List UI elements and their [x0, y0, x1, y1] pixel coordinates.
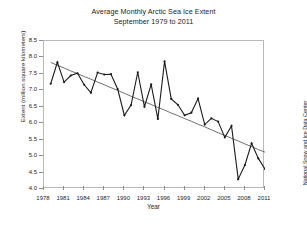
data-point-1999 — [184, 114, 186, 116]
x-tick-mark — [83, 186, 84, 190]
plot-area — [43, 40, 264, 188]
x-tick-label-2011: 2011 — [258, 195, 271, 201]
data-series-path — [51, 61, 265, 179]
x-tick-mark — [123, 186, 124, 190]
x-tick-label-1984: 1984 — [76, 195, 89, 201]
x-tick-label-1996: 1996 — [157, 195, 170, 201]
x-tick-mark — [103, 186, 104, 190]
data-point-2009 — [251, 142, 253, 144]
x-tick-mark — [244, 186, 245, 190]
data-point-1995 — [157, 118, 159, 120]
data-point-1983 — [76, 72, 78, 74]
y-tick-label-5-0: 5.0 — [29, 152, 37, 158]
x-tick-mark — [164, 186, 165, 190]
y-tick-label-6-5: 6.5 — [29, 103, 37, 109]
x-tick-label-2008: 2008 — [237, 195, 250, 201]
data-point-1998 — [177, 104, 179, 106]
x-tick-label-2002: 2002 — [197, 195, 210, 201]
plot-svg — [44, 41, 265, 189]
x-tick-label-1999: 1999 — [177, 195, 190, 201]
data-point-1991 — [130, 104, 132, 106]
data-point-2002 — [204, 123, 206, 125]
data-point-1994 — [150, 83, 152, 85]
y-tick-label-8-0: 8.0 — [29, 53, 37, 59]
chart-title-line-1: Average Monthly Arctic Sea Ice Extent — [0, 7, 307, 17]
data-point-2010 — [257, 157, 259, 159]
data-point-1996 — [163, 60, 165, 62]
data-point-2005 — [224, 136, 226, 138]
y-tick-label-4-0: 4.0 — [29, 185, 37, 191]
chart-title: Average Monthly Arctic Sea Ice Extent Se… — [0, 7, 307, 26]
y-axis-title: Extent (million square kilometers) — [19, 7, 26, 147]
y-tick-label-4-5: 4.5 — [29, 169, 37, 175]
x-axis-title: Year — [43, 203, 264, 210]
data-point-1980 — [56, 61, 58, 63]
x-tick-label-2005: 2005 — [217, 195, 230, 201]
y-tick-label-5-5: 5.5 — [29, 136, 37, 142]
x-axis-tick-labels: 1978198119841987199019931996199920022005… — [43, 190, 264, 202]
x-tick-mark — [43, 186, 44, 190]
x-tick-mark — [264, 186, 265, 190]
source-credit: National Snow and Ice Data Center — [302, 82, 307, 204]
y-tick-label-6-0: 6.0 — [29, 119, 37, 125]
x-tick-label-1987: 1987 — [97, 195, 110, 201]
data-point-1981 — [63, 81, 65, 83]
x-tick-label-1981: 1981 — [56, 195, 69, 201]
data-point-1993 — [143, 106, 145, 108]
data-point-2003 — [210, 117, 212, 119]
y-tick-label-7-5: 7.5 — [29, 70, 37, 76]
data-point-2006 — [230, 125, 232, 127]
data-point-markers — [50, 60, 265, 180]
x-tick-mark — [204, 186, 205, 190]
data-point-1988 — [110, 73, 112, 75]
chart-title-line-2: September 1979 to 2011 — [0, 17, 307, 27]
data-point-1987 — [103, 73, 105, 75]
data-point-2000 — [190, 112, 192, 114]
data-point-1986 — [96, 71, 98, 73]
data-point-1985 — [90, 92, 92, 94]
x-tick-label-1993: 1993 — [137, 195, 150, 201]
credit-wrapper: National Snow and Ice Data Center — [291, 0, 305, 228]
data-point-1992 — [137, 71, 139, 73]
y-axis-title-wrapper: Extent (million square kilometers) — [0, 0, 18, 228]
x-tick-label-1978: 1978 — [36, 195, 49, 201]
data-point-2007 — [237, 178, 239, 180]
data-point-1989 — [117, 88, 119, 90]
data-point-2008 — [244, 164, 246, 166]
sea-ice-extent-chart: Average Monthly Arctic Sea Ice Extent Se… — [0, 0, 307, 228]
data-point-1997 — [170, 98, 172, 100]
x-tick-mark — [224, 186, 225, 190]
x-tick-mark — [184, 186, 185, 190]
x-tick-mark — [63, 186, 64, 190]
x-tick-mark — [143, 186, 144, 190]
data-point-1982 — [70, 74, 72, 76]
y-tick-label-8-5: 8.5 — [29, 37, 37, 43]
x-tick-label-1990: 1990 — [117, 195, 130, 201]
y-tick-label-7-0: 7.0 — [29, 86, 37, 92]
data-point-2001 — [197, 97, 199, 99]
data-point-1984 — [83, 84, 85, 86]
data-point-1990 — [123, 114, 125, 116]
data-point-2004 — [217, 120, 219, 122]
data-point-1979 — [50, 83, 52, 85]
